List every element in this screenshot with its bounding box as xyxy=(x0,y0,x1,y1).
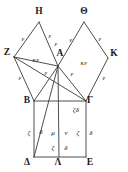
geometry-figure: HΘZAKBΓΔΛE εεεεεεεεεκεκεζδζδμνζδζδ xyxy=(0,0,128,172)
edge-label-eps-AT: ε xyxy=(70,37,73,44)
edge-label-eps-AG: ε xyxy=(71,71,74,78)
edge-label-zeta-right: ζ xyxy=(77,130,80,137)
edge-label-eps-AB: ε xyxy=(45,70,48,77)
edge-label-delta-right: δ xyxy=(89,130,92,137)
edge-label-delta-bottom: δ xyxy=(64,145,67,152)
vertex-label-z: Z xyxy=(4,48,10,58)
vertex-label-e: E xyxy=(87,158,93,168)
vertex-label-gamma: Γ xyxy=(87,96,93,106)
vertex-label-b: B xyxy=(24,96,30,106)
edge-label-eps-HA: ε xyxy=(49,33,52,40)
vertex-label-delta: Δ xyxy=(24,158,30,168)
edge-label-eps-ZH: ε xyxy=(22,36,25,43)
edge-label-zeta-bottom: ζ xyxy=(52,145,55,152)
edge-label-mu: μ xyxy=(51,130,55,137)
edge-label-zeta-delta-gamma: ζδ xyxy=(73,107,80,114)
edge-label-kappa-eps-left: κε xyxy=(33,57,40,64)
segment-group xyxy=(14,22,108,157)
seg-Theta-K xyxy=(84,22,108,58)
seg-Z-H xyxy=(14,22,39,57)
edge-label-eps-ZB: ε xyxy=(19,75,22,82)
vertex-label-theta: Θ xyxy=(80,7,87,17)
edge-label-eps-TK: ε xyxy=(99,36,102,43)
vertex-label-a: A xyxy=(57,49,64,59)
edge-label-eps-AH-low: ε xyxy=(55,41,58,48)
edge-label-zeta-left: ζ xyxy=(28,130,31,137)
edge-label-delta-left: δ xyxy=(39,129,42,136)
vertex-label-h: H xyxy=(35,7,42,17)
vertex-label-lambda: Λ xyxy=(55,158,62,168)
edge-label-nu: ν xyxy=(64,130,67,137)
edge-label-kappa-eps-right: κε xyxy=(81,60,88,67)
seg-A-Lambda xyxy=(58,66,59,157)
edge-label-eps-KG: ε xyxy=(103,75,106,82)
vertex-label-k: K xyxy=(110,49,117,59)
